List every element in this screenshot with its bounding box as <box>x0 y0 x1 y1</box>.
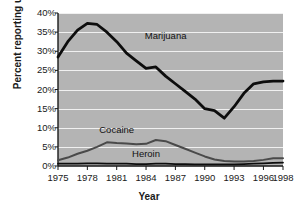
series-label-marijuana: Marijuana <box>145 30 187 41</box>
series-label-cocaine: Cocaine <box>99 124 134 135</box>
chart-figure: Percent reporting use 40%35%30%25%20%15%… <box>0 0 298 212</box>
x-axis-title: Year <box>0 191 298 202</box>
series-line-cocaine <box>58 140 283 161</box>
series-line-heroin <box>58 163 283 165</box>
series-label-heroin: Heroin <box>132 148 160 159</box>
